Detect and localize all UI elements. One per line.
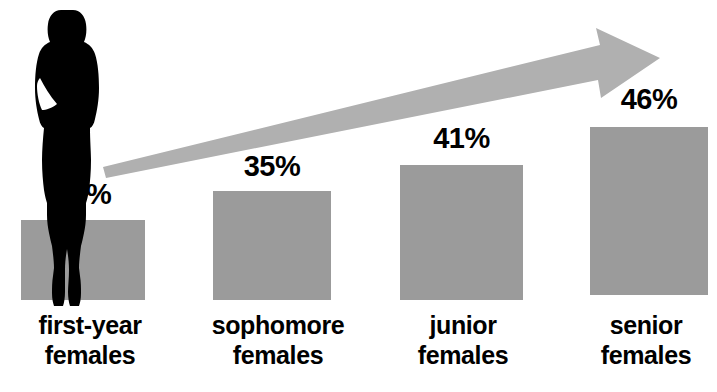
- category-label-junior-females: junior females: [378, 310, 548, 370]
- category-label-first-year-females: first-year females: [0, 310, 180, 370]
- value-label-sophomore-females: 35%: [213, 150, 331, 183]
- value-label-junior-females: 41%: [400, 122, 523, 155]
- category-label-line-2: females: [378, 340, 548, 370]
- category-label-line-2: females: [188, 340, 368, 370]
- category-label-sophomore-females: sophomore females: [188, 310, 368, 370]
- category-label-line-1: junior: [378, 310, 548, 340]
- category-label-senior-females: senior females: [560, 310, 717, 370]
- value-label-senior-females: 46%: [590, 83, 708, 116]
- category-label-line-2: females: [0, 340, 180, 370]
- bar-senior-females: [590, 127, 708, 295]
- category-label-line-1: sophomore: [188, 310, 368, 340]
- bar-sophomore-females: [213, 191, 331, 300]
- bar-chart-figure: 32% 35% 41% 46% first-year females sopho…: [0, 0, 717, 392]
- category-label-line-2: females: [560, 340, 717, 370]
- category-label-line-1: first-year: [0, 310, 180, 340]
- category-label-line-1: senior: [560, 310, 717, 340]
- bar-junior-females: [400, 165, 523, 300]
- bar-first-year-females: [21, 220, 145, 300]
- value-label-first-year-females: 32%: [21, 178, 145, 211]
